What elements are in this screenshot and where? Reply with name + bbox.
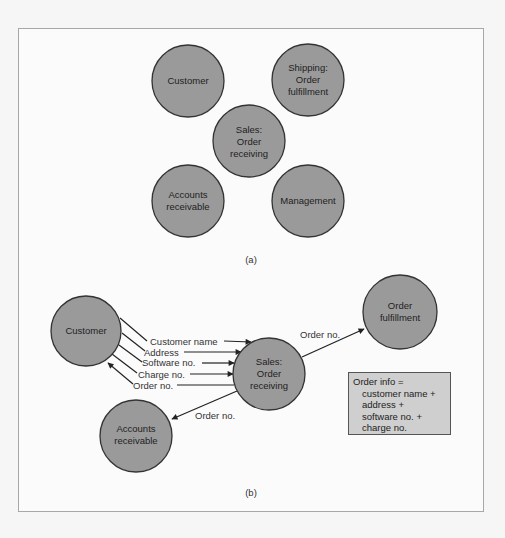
diagram-canvas: Customer Shipping: Order fulfillment Sal…: [0, 0, 505, 538]
flow-order-no-to-accounts: Order no.: [172, 391, 237, 421]
flow-order-no-to-fulfillment: Order no.: [300, 329, 364, 357]
node-label: Sales:: [236, 124, 262, 135]
node-label: Sales:: [256, 356, 282, 367]
node-label: receivable: [114, 435, 157, 446]
flow-label: Order no.: [133, 380, 173, 391]
panel-a-label: (a): [245, 254, 257, 265]
node-label: Shipping:: [288, 62, 328, 73]
node-label: Order: [257, 368, 281, 379]
order-info-box: Order info = customer name + address + s…: [348, 372, 451, 435]
flow-label: Charge no.: [138, 369, 185, 380]
info-box-line: customer name +: [353, 388, 446, 400]
node-b-sales: Sales: Order receiving: [233, 338, 305, 410]
node-b-customer: Customer: [51, 296, 121, 366]
node-a-sales: Sales: Order receiving: [213, 105, 285, 177]
node-b-order-fulfillment: Order fulfillment: [363, 275, 437, 349]
node-label: Order: [237, 136, 261, 147]
flow-label: Customer name: [150, 336, 218, 347]
node-a-management: Management: [272, 165, 344, 237]
node-label: fulfillment: [380, 312, 420, 323]
info-box-title: Order info =: [353, 376, 446, 388]
node-b-accounts: Accounts receivable: [100, 400, 172, 472]
flow-label: Order no.: [195, 410, 235, 421]
node-a-customer: Customer: [152, 45, 224, 117]
node-label: Accounts: [116, 423, 155, 434]
node-label: Customer: [167, 75, 208, 86]
info-box-line: address +: [353, 399, 446, 411]
flow-label: Software no.: [142, 357, 195, 368]
node-label: receivable: [166, 201, 209, 212]
node-label: Customer: [65, 325, 106, 336]
flow-label: Order no.: [300, 329, 340, 340]
node-label: Management: [280, 195, 336, 206]
flow-customer-name: Customer name: [120, 318, 251, 347]
node-a-accounts: Accounts receivable: [152, 165, 224, 237]
node-label: Accounts: [168, 189, 207, 200]
node-label: Order: [388, 300, 412, 311]
panel-a: Customer Shipping: Order fulfillment Sal…: [152, 44, 344, 265]
node-a-shipping: Shipping: Order fulfillment: [272, 44, 344, 116]
node-label: receiving: [250, 380, 288, 391]
info-box-line: charge no.: [353, 422, 446, 434]
panel-b-label: (b): [245, 487, 257, 498]
node-label: Order: [296, 74, 320, 85]
node-label: receiving: [230, 148, 268, 159]
node-label: fulfillment: [288, 86, 328, 97]
info-box-line: software no. +: [353, 411, 446, 423]
